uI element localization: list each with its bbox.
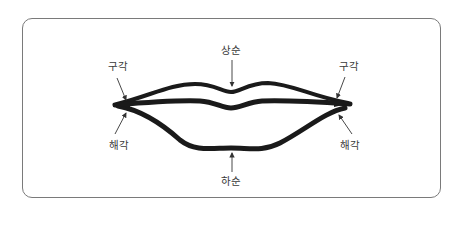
label-mouth-corner-right: 구각 [339, 61, 359, 72]
label-lower-corner-right: 해각 [340, 140, 360, 151]
arrow-lower-corner-left [115, 113, 126, 134]
lips-illustration [0, 0, 462, 228]
arrow-lower-corner-right [339, 115, 352, 134]
label-lower-lip: 하순 [221, 176, 241, 187]
label-upper-lip: 상순 [221, 45, 241, 56]
label-lower-corner-left: 해각 [109, 140, 129, 151]
arrow-corner-left [117, 78, 126, 100]
lower-lip-outline [118, 106, 345, 149]
mouth-line-upper [115, 101, 350, 108]
arrow-corner-right [337, 77, 345, 98]
label-mouth-corner-left: 구각 [108, 61, 128, 72]
